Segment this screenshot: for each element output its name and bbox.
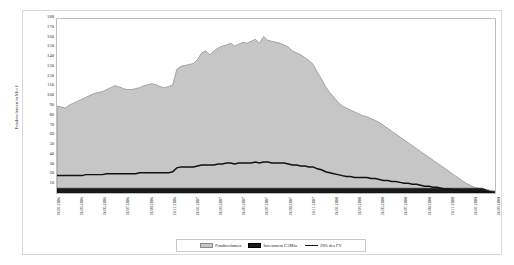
y-tick-label: 140 xyxy=(47,53,54,58)
x-tick-label-text: 19.05.2007 xyxy=(241,197,246,216)
chart-svg xyxy=(57,19,495,193)
x-tick-label-text: 19.11.2008 xyxy=(450,197,455,216)
x-tick-label: 19.03.2007 xyxy=(215,195,222,237)
x-tick-label-text: 19.09.2006 xyxy=(149,197,154,216)
x-tick-label: 19.05.2006 xyxy=(99,195,106,237)
y-tick-label: 70 xyxy=(49,121,54,126)
x-tick-label: 19.11.2008 xyxy=(446,195,453,237)
x-tick-label: 19.09.2006 xyxy=(145,195,152,237)
y-axis-tick-labels: 1801701601501401301201101009080706050403… xyxy=(30,16,54,194)
y-tick-label: 80 xyxy=(49,111,54,116)
legend-swatch-area-icon xyxy=(200,243,213,248)
legend-item-fondsvolumen: Fondsvolumen xyxy=(200,243,241,248)
x-tick-label: 19.07.2008 xyxy=(400,195,407,237)
y-tick-label: 170 xyxy=(47,23,54,28)
y-tick-label: 30 xyxy=(49,160,54,165)
y-tick-label: 100 xyxy=(47,92,54,97)
x-tick-label: 19.01.2008 xyxy=(330,195,337,237)
x-tick-label: 19.11.2006 xyxy=(168,195,175,237)
y-tick-label: 50 xyxy=(49,141,54,146)
legend-item-investment: Investment € 5Mio. xyxy=(248,243,298,248)
y-tick-label: 40 xyxy=(49,150,54,155)
legend-label-20pct: 20% des FV xyxy=(320,243,342,248)
legend-swatch-line-icon xyxy=(305,245,318,246)
x-tick-label-text: 19.07.2007 xyxy=(264,197,269,216)
plot-area xyxy=(56,18,496,194)
x-tick-label-text: 19.09.2008 xyxy=(427,197,432,216)
x-tick-label-text: 19.03.2009 xyxy=(496,197,501,216)
x-tick-label-text: 19.11.2007 xyxy=(311,197,316,216)
y-axis-title-text: Fondsvolumen in Mio € xyxy=(14,85,19,129)
x-tick-label: 19.01.2007 xyxy=(191,195,198,237)
y-tick-label: 160 xyxy=(47,33,54,38)
x-tick-label-text: 19.03.2006 xyxy=(79,197,84,216)
x-tick-label: 19.07.2006 xyxy=(122,195,129,237)
series-investment-area xyxy=(57,188,495,193)
x-tick-label-text: 19.07.2006 xyxy=(125,197,130,216)
x-tick-label-text: 19.11.2006 xyxy=(172,197,177,216)
x-tick-label: 19.01.2006 xyxy=(53,195,60,237)
x-tick-label-text: 19.05.2006 xyxy=(102,197,107,216)
x-tick-label: 19.03.2009 xyxy=(493,195,500,237)
y-tick-label: 60 xyxy=(49,131,54,136)
chart-legend: Fondsvolumen Investment € 5Mio. 20% des … xyxy=(176,239,366,252)
x-tick-label: 19.09.2007 xyxy=(284,195,291,237)
x-tick-label-text: 19.01.2008 xyxy=(334,197,339,216)
chart-screenshot: Fondsvolumen in Mio € 180170160150140130… xyxy=(0,0,514,265)
x-tick-label: 19.05.2007 xyxy=(238,195,245,237)
x-tick-label: 19.03.2008 xyxy=(354,195,361,237)
x-tick-label: 19.01.2009 xyxy=(469,195,476,237)
x-tick-label-text: 19.09.2007 xyxy=(288,197,293,216)
x-axis-tick-labels: 19.01.200619.03.200619.05.200619.07.2006… xyxy=(56,195,496,237)
y-tick-label: 180 xyxy=(47,14,54,19)
y-tick-label: 110 xyxy=(47,82,54,87)
y-axis-title: Fondsvolumen in Mio € xyxy=(10,62,22,152)
y-tick-label: 10 xyxy=(49,180,54,185)
y-tick-label: 20 xyxy=(49,170,54,175)
x-tick-label-text: 19.05.2008 xyxy=(380,197,385,216)
legend-label-investment: Investment € 5Mio. xyxy=(263,243,298,248)
y-tick-label: 150 xyxy=(47,43,54,48)
y-tick-label: 90 xyxy=(49,102,54,107)
x-tick-label-text: 19.03.2007 xyxy=(218,197,223,216)
x-tick-label: 19.03.2006 xyxy=(76,195,83,237)
x-tick-label: 19.05.2008 xyxy=(377,195,384,237)
x-tick-label-text: 19.03.2008 xyxy=(357,197,362,216)
x-tick-label-text: 19.01.2006 xyxy=(56,197,61,216)
series-fondsvolumen-area xyxy=(57,36,495,193)
x-tick-label: 19.09.2008 xyxy=(423,195,430,237)
x-tick-label-text: 19.01.2007 xyxy=(195,197,200,216)
x-tick-label-text: 19.07.2008 xyxy=(403,197,408,216)
x-tick-label: 19.11.2007 xyxy=(307,195,314,237)
legend-swatch-investment-icon xyxy=(248,243,261,248)
legend-item-20pct: 20% des FV xyxy=(305,243,342,248)
x-tick-label-text: 19.01.2009 xyxy=(473,197,478,216)
y-tick-label: 120 xyxy=(47,72,54,77)
legend-label-fondsvolumen: Fondsvolumen xyxy=(215,243,241,248)
x-tick-label: 19.07.2007 xyxy=(261,195,268,237)
y-tick-label: 130 xyxy=(47,62,54,67)
